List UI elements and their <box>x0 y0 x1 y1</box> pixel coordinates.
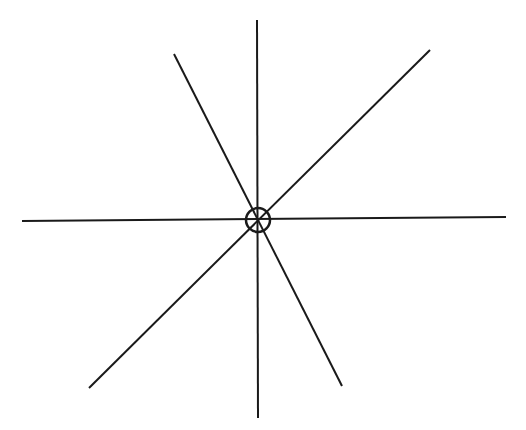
radial-lines-diagram <box>0 0 526 430</box>
lines-group <box>22 20 506 418</box>
horizontal-line <box>22 217 506 221</box>
